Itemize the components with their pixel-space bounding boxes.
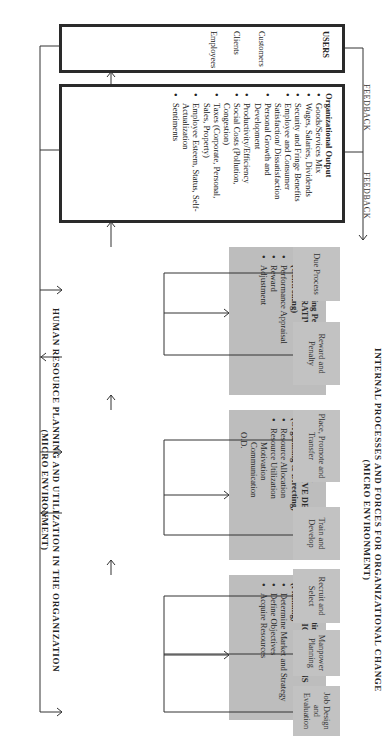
- diagram-stage: HUMAN RESOURCE PLANNING AND UTILIZATION …: [0, 0, 389, 737]
- feedback-label-2: FEEDBACK: [362, 172, 371, 219]
- feedback-label-1: FEEDBACK: [362, 84, 371, 131]
- connectors: [0, 0, 389, 737]
